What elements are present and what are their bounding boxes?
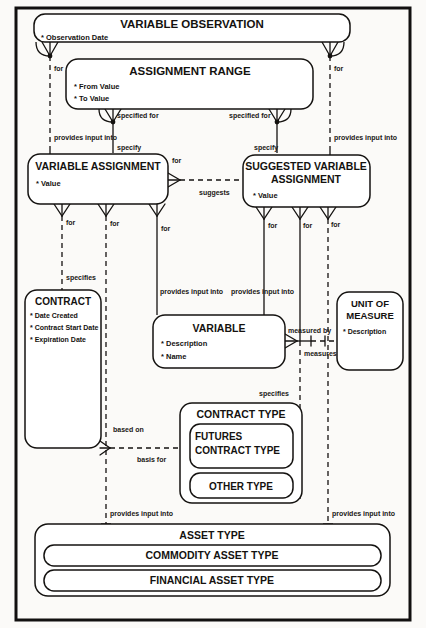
subtype-label: OTHER TYPE — [209, 481, 273, 492]
relationship-label-for-va-1: for — [66, 219, 76, 226]
relationship-label-specify-left: specify — [117, 144, 141, 152]
relationship-label-provides-input-into-asset-left: provides input into — [110, 510, 173, 518]
entity-assignment-range[interactable]: ASSIGNMENT RANGE * From Value * To Value — [66, 59, 313, 109]
subtype-label-line1: FUTURES — [195, 431, 243, 442]
relationship-label-for-sva-2: for — [303, 222, 313, 229]
entity-title: VARIABLE OBSERVATION — [120, 18, 264, 30]
entity-title: VARIABLE ASSIGNMENT — [35, 160, 161, 172]
entity-attribute: * Name — [161, 352, 186, 361]
relationship-label-for-va-2: for — [110, 220, 120, 227]
subtype-futures-contract-type[interactable]: FUTURES CONTRACT TYPE — [190, 424, 293, 468]
entity-title: ASSIGNMENT RANGE — [129, 65, 251, 77]
entity-title-line1: UNIT OF — [351, 298, 389, 309]
entity-attribute: * Contract Start Date — [30, 324, 99, 331]
entity-attribute: * Observation Date — [41, 33, 108, 42]
entity-title: CONTRACT — [35, 296, 91, 307]
relationship-label-specify-right: specify — [254, 144, 278, 152]
relationship-label-provides-input-into-asset-right: provides input into — [332, 510, 395, 518]
entity-attribute: * To Value — [74, 94, 109, 103]
entity-attribute: * Value — [36, 179, 61, 188]
relationship-label-provides-input-into-variable-right: provides input into — [231, 288, 294, 296]
entity-attribute: * Date Created — [30, 312, 78, 319]
relationship-label-provides-input-into-variable-left: provides input into — [160, 288, 223, 296]
entity-attribute: * Description — [161, 339, 208, 348]
connector-sva-for-assettype — [320, 207, 336, 524]
entity-attribute: * From Value — [74, 82, 119, 91]
entity-unit-of-measure[interactable]: UNIT OF MEASURE * Description — [337, 292, 403, 370]
connector-variable-measured-by-uom — [285, 334, 337, 348]
relationship-label-for-right-top: for — [334, 65, 344, 72]
er-diagram: VARIABLE OBSERVATION * Observation Date … — [0, 0, 426, 628]
entity-suggested-variable-assignment[interactable]: SUGGESTED VARIABLE ASSIGNMENT * Value — [243, 155, 370, 207]
relationship-label-specified-for-right: specified for — [229, 112, 271, 120]
relationship-label-measured-by: measured by — [288, 327, 331, 335]
connector-contract-based-on-contracttype — [100, 441, 180, 455]
entity-asset-type[interactable]: ASSET TYPE COMMODITY ASSET TYPE FINANCIA… — [35, 524, 390, 596]
entity-variable-assignment[interactable]: VARIABLE ASSIGNMENT * Value — [28, 154, 168, 204]
entity-attribute: * Description — [343, 328, 386, 336]
relationship-label-measures: measures — [304, 350, 337, 357]
relationship-label-provides-input-into-far-left: provides input into — [54, 134, 117, 142]
subtype-commodity-asset-type[interactable]: COMMODITY ASSET TYPE — [44, 545, 381, 566]
entity-variable-observation[interactable]: VARIABLE OBSERVATION * Observation Date — [34, 14, 350, 42]
relationship-label-for-sva-3: for — [331, 221, 341, 228]
entity-title: VARIABLE — [193, 322, 246, 334]
subtype-label: COMMODITY ASSET TYPE — [145, 549, 278, 561]
subtype-other-type[interactable]: OTHER TYPE — [190, 473, 293, 498]
relationship-label-for-va-3: for — [161, 225, 171, 232]
subtype-label-line2: CONTRACT TYPE — [195, 445, 280, 456]
relationship-label-provides-input-into-far-right: provides input into — [334, 134, 397, 142]
entity-attribute: * Value — [253, 191, 278, 200]
entity-contract-type[interactable]: CONTRACT TYPE FUTURES CONTRACT TYPE OTHE… — [180, 403, 302, 503]
entity-title-line2: ASSIGNMENT — [271, 173, 342, 185]
relationship-label-for-left-top: for — [54, 65, 64, 72]
connector-va-for-variable — [149, 204, 165, 315]
connector-va-suggests-sva — [168, 173, 243, 187]
entity-attribute: * Expiration Date — [30, 336, 86, 344]
relationship-label-specifies-contract-type: specifies — [259, 390, 289, 398]
subtype-label: FINANCIAL ASSET TYPE — [150, 574, 274, 586]
entity-title-line1: SUGGESTED VARIABLE — [245, 160, 367, 172]
diagram-canvas: VARIABLE OBSERVATION * Observation Date … — [0, 0, 426, 628]
relationship-label-specified-for-left: specified for — [117, 112, 159, 120]
entity-title: ASSET TYPE — [179, 529, 244, 541]
relationship-label-suggests: suggests — [199, 189, 230, 197]
relationship-label-specifies-contract: specifies — [66, 274, 96, 282]
entity-variable[interactable]: VARIABLE * Description * Name — [153, 315, 285, 368]
entity-title-line2: MEASURE — [346, 310, 394, 321]
subtype-financial-asset-type[interactable]: FINANCIAL ASSET TYPE — [44, 570, 381, 591]
relationship-label-for-sva-1: for — [268, 222, 278, 229]
relationship-label-for-va-right: for — [172, 157, 182, 164]
entity-title: CONTRACT TYPE — [196, 408, 285, 420]
entity-contract[interactable]: CONTRACT * Date Created * Contract Start… — [25, 290, 101, 448]
relationship-label-basis-for: basis for — [137, 456, 166, 463]
relationship-label-based-on: based on — [113, 426, 144, 433]
